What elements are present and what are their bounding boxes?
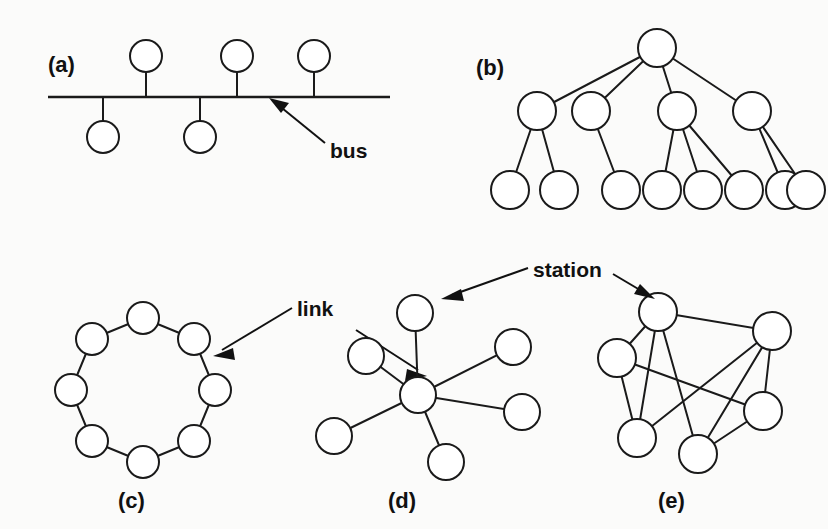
bus-station-below-1 (87, 121, 119, 153)
tree-leaf-node-1 (491, 171, 529, 209)
bus-station-below-2 (184, 121, 216, 153)
panel-label-d: (d) (388, 488, 416, 513)
network-topology-figure: (a) bus (0, 0, 828, 529)
link-annotation-label: link (297, 297, 333, 320)
mesh-edge-A-F (658, 312, 698, 454)
link-leader-line-left (222, 308, 292, 350)
bus-leader-line (277, 104, 325, 143)
mesh-station-C (598, 339, 636, 377)
bus-annotation: bus (269, 98, 367, 162)
tree-level2-node-1 (518, 92, 556, 130)
star-station-2 (495, 329, 531, 365)
station-annotation-label: station (533, 258, 602, 281)
station-leader-arrowhead-right (634, 284, 655, 299)
ring-station-4 (178, 425, 210, 457)
station-leader-arrowhead-left (441, 289, 464, 301)
station-leader-line-left (452, 268, 528, 295)
ring-station-6 (76, 425, 108, 457)
ring-station-5 (127, 446, 159, 478)
tree-leaf-node-2 (540, 171, 578, 209)
panel-label-a: (a) (48, 52, 75, 77)
bus-station-above-1 (130, 40, 162, 72)
panel-star: (d) (316, 295, 540, 513)
panel-label-c: (c) (118, 488, 145, 513)
bus-annotation-label: bus (330, 139, 367, 162)
star-station-5 (316, 418, 352, 454)
tree-level2-node-2 (572, 92, 610, 130)
panel-label-b: (b) (476, 55, 504, 80)
mesh-station-B (753, 312, 791, 350)
mesh-station-E (618, 419, 656, 457)
star-station-4 (428, 444, 464, 480)
tree-level2-node-3 (658, 92, 696, 130)
tree-leaf-node-6 (725, 171, 763, 209)
mesh-station-A (639, 293, 677, 331)
ring-station-8 (76, 323, 108, 355)
panel-mesh: (e) (598, 293, 791, 513)
mesh-station-F (679, 435, 717, 473)
ring-station-7 (55, 374, 87, 406)
panel-label-e: (e) (658, 488, 685, 513)
panel-bus: (a) (48, 40, 390, 153)
ring-station-2 (178, 323, 210, 355)
tree-level2-node-4 (733, 92, 771, 130)
topology-diagram-canvas: (a) bus (0, 0, 828, 529)
panel-ring: (c) (55, 302, 231, 513)
bus-station-above-3 (298, 40, 330, 72)
mesh-edge-C-D (617, 358, 763, 411)
tree-leaf-node-5 (684, 171, 722, 209)
ring-station-1 (127, 302, 159, 334)
ring-station-3 (199, 374, 231, 406)
panel-tree: (b) (476, 29, 825, 209)
tree-leaf-node-8 (787, 171, 825, 209)
bus-station-above-2 (221, 40, 253, 72)
link-annotation: link (213, 297, 427, 381)
star-hub-node (400, 377, 436, 413)
star-station-6 (348, 338, 384, 374)
star-station-1 (397, 295, 433, 331)
tree-leaf-node-4 (643, 171, 681, 209)
mesh-station-D (744, 392, 782, 430)
tree-leaf-node-3 (602, 171, 640, 209)
star-station-3 (504, 394, 540, 430)
tree-root-node (638, 29, 676, 67)
station-annotation: station (441, 258, 655, 301)
